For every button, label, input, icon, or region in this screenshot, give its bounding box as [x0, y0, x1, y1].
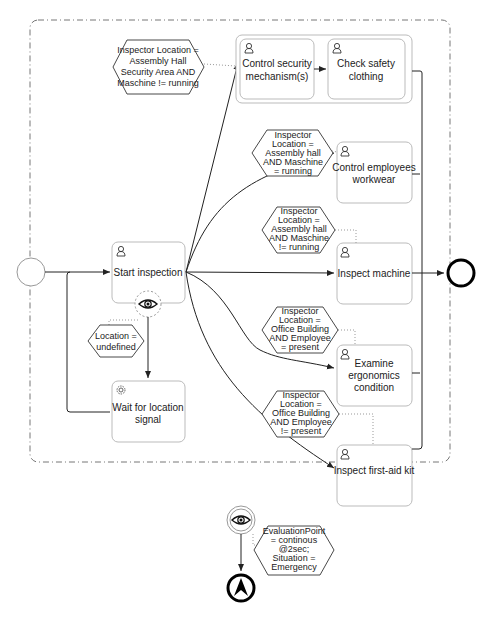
svg-text:Security Area AND: Security Area AND	[121, 67, 196, 77]
svg-text:!= running: != running	[279, 242, 319, 252]
task-examine-ergonomics-condition[interactable]: Examine ergonomics condition	[337, 345, 412, 406]
svg-text:= present: = present	[281, 342, 319, 352]
condition-office-present: Inspector Location = Office Building AND…	[262, 306, 338, 353]
condition-assembly-running: Inspector Location = Assembly hall AND M…	[252, 130, 333, 176]
eye-icon	[139, 300, 157, 308]
bpmn-diagram: Start inspection Location = undefined Wa…	[0, 0, 493, 621]
condition-office-not-present: Inspector Location = Office Building AND…	[262, 390, 339, 437]
task-label: Start inspection	[114, 267, 183, 278]
condition-location-undefined: Location = undefined	[88, 325, 144, 357]
condition-security-area: Inspector Location = Assembly Hall Secur…	[113, 40, 204, 94]
svg-text:Maschine != running: Maschine != running	[117, 78, 198, 88]
svg-text:ergonomics: ergonomics	[348, 370, 400, 381]
svg-text:Inspect first-aid kit: Inspect first-aid kit	[334, 465, 415, 476]
start-event[interactable]	[17, 258, 45, 286]
escalation-end-event[interactable]	[228, 575, 254, 601]
subprocess-security[interactable]: Control security mechanism(s) Check safe…	[236, 35, 412, 103]
eye-icon	[232, 516, 250, 524]
context-monitor-boundary-event[interactable]	[135, 291, 161, 317]
svg-text:mechanism(s): mechanism(s)	[246, 71, 309, 82]
task-inspect-machine[interactable]: Inspect machine	[337, 243, 412, 304]
svg-text:Examine: Examine	[355, 358, 394, 369]
svg-text:= running: = running	[274, 166, 312, 176]
condition-assembly-not-running: Inspector Location = Assembly hall AND M…	[262, 206, 335, 253]
svg-text:clothing: clothing	[349, 71, 383, 82]
svg-text:workwear: workwear	[352, 174, 396, 185]
svg-text:Assembly Hall: Assembly Hall	[129, 56, 186, 66]
condition-emergency: EvaluationPoint = continous @2sec; Situa…	[254, 526, 334, 575]
svg-text:Control security: Control security	[242, 58, 311, 69]
svg-text:condition: condition	[354, 382, 394, 393]
svg-text:Emergency: Emergency	[271, 562, 317, 572]
svg-text:Location =: Location =	[95, 331, 137, 341]
svg-text:signal: signal	[135, 414, 161, 425]
svg-text:Check safety: Check safety	[337, 58, 395, 69]
svg-text:Inspect machine: Inspect machine	[338, 268, 411, 279]
task-inspect-first-aid-kit[interactable]: Inspect first-aid kit	[334, 445, 415, 506]
task-wait-for-location-signal[interactable]: Wait for location signal	[112, 381, 185, 442]
task-check-safety-clothing[interactable]: Check safety clothing	[328, 39, 405, 99]
svg-text:Inspector Location =: Inspector Location =	[117, 45, 198, 55]
svg-text:undefined: undefined	[96, 342, 136, 352]
svg-text:Control employees: Control employees	[332, 162, 415, 173]
task-control-employees-workwear[interactable]: Control employees workwear	[332, 142, 415, 203]
end-event[interactable]	[448, 260, 474, 286]
task-control-security-mechanisms[interactable]: Control security mechanism(s)	[240, 39, 314, 99]
svg-text:Wait for location: Wait for location	[112, 402, 183, 413]
svg-text:!= present: != present	[281, 426, 322, 436]
context-monitor-boundary-on-subprocess[interactable]	[227, 506, 255, 534]
